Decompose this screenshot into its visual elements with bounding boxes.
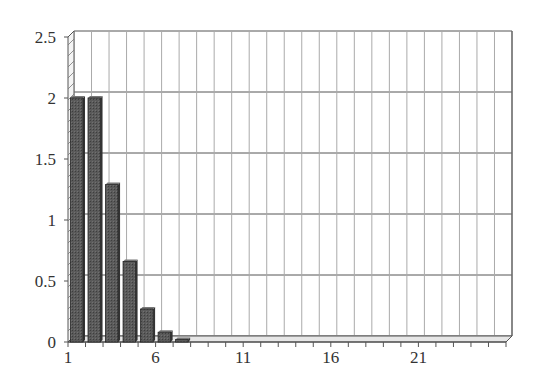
bar-4 [123,259,138,342]
grid [74,31,512,336]
bar-2 [88,96,103,342]
x-tick-label: 21 [410,348,427,367]
bar-1 [71,96,86,342]
bars [71,96,191,342]
bar-6 [158,330,173,342]
bar-5 [141,307,156,342]
x-tick-label: 6 [151,348,160,367]
y-tick-label: 1 [48,211,57,230]
y-tick-label: 0 [48,333,57,352]
y-tick-label: 2 [48,89,57,108]
x-tick-label: 16 [322,348,339,367]
y-tick-label: 2.5 [35,28,56,47]
bar-3 [106,183,121,342]
y-tick-label: 0.5 [35,272,56,291]
bar-chart: 00.511.522.516111621 [0,0,539,387]
bar-7 [176,338,191,342]
y-tick-label: 1.5 [35,150,56,169]
x-tick-label: 1 [64,348,73,367]
x-tick-label: 11 [235,348,251,367]
